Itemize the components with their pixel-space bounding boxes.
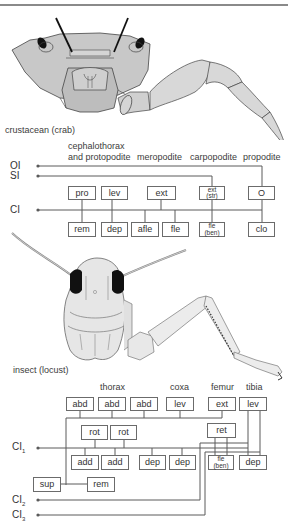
muscle-box-abd-2: abd — [98, 397, 126, 411]
muscle-box-rem: rem — [87, 477, 115, 492]
muscle-box-abd-3: abd — [130, 397, 158, 411]
muscle-box-tibia-dep: dep — [239, 455, 267, 470]
muscle-box-add-1: add — [71, 455, 99, 470]
muscle-box-add-2: add — [101, 455, 129, 470]
muscle-box-coxa-lev: lev — [166, 397, 194, 411]
muscle-box-tibia-lev: lev — [239, 397, 267, 411]
locust-wiring — [0, 0, 295, 526]
muscle-box-femur-ext: ext — [208, 397, 236, 411]
muscle-box-abd-1: abd — [66, 397, 94, 411]
muscle-box-rot-1: rot — [81, 425, 108, 440]
muscle-box-rot-2: rot — [110, 425, 137, 440]
muscle-box-ret: ret — [207, 423, 236, 438]
muscle-box-sup: sup — [33, 477, 61, 492]
muscle-box-fle-ben: fle(ben) — [208, 455, 234, 470]
muscle-box-dep-1: dep — [139, 455, 166, 470]
muscle-box-dep-2: dep — [169, 455, 196, 470]
